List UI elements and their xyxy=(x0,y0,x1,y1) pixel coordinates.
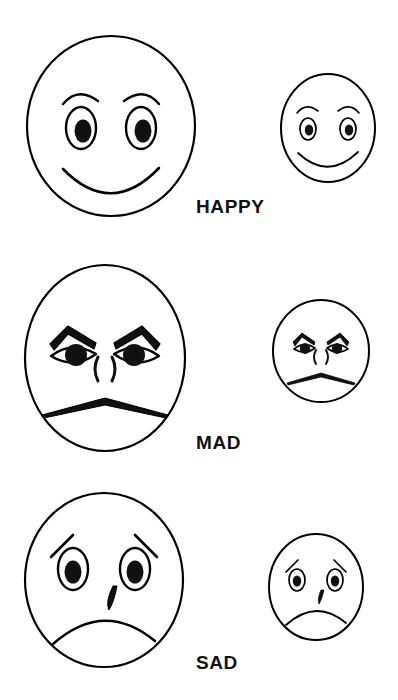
large-sad-face xyxy=(18,486,190,674)
worksheet-canvas: HAPPY xyxy=(0,0,398,700)
face-outline xyxy=(273,300,369,402)
right-pupil xyxy=(123,344,145,366)
left-pupil xyxy=(293,575,301,586)
face-outline xyxy=(269,534,363,640)
emotion-label-sad: SAD xyxy=(196,652,238,674)
right-pupil xyxy=(345,124,353,135)
left-pupil xyxy=(65,561,82,584)
face-outline xyxy=(281,74,375,182)
right-pupil xyxy=(127,561,144,584)
small-sad-face xyxy=(264,528,368,646)
small-mad-face xyxy=(269,295,374,407)
emotion-label-happy: HAPPY xyxy=(196,196,264,218)
right-pupil xyxy=(135,120,152,143)
face-outline xyxy=(25,493,183,667)
left-pupil xyxy=(75,120,92,143)
left-pupil xyxy=(65,344,87,366)
emotion-label-mad: MAD xyxy=(196,432,241,454)
left-pupil xyxy=(305,124,313,135)
large-mad-face xyxy=(18,258,192,458)
face-outline xyxy=(25,265,185,451)
large-happy-face xyxy=(20,28,202,224)
left-pupil xyxy=(300,343,310,354)
small-happy-face xyxy=(276,68,380,188)
face-outline xyxy=(27,36,195,216)
right-pupil xyxy=(331,575,339,586)
right-pupil xyxy=(332,343,342,354)
